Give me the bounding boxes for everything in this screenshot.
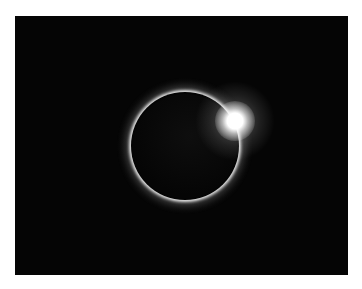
eclipse-photo: Solar eclipse with bright diamond ring f… [15,16,348,275]
diamond-ring-flare [215,101,255,141]
